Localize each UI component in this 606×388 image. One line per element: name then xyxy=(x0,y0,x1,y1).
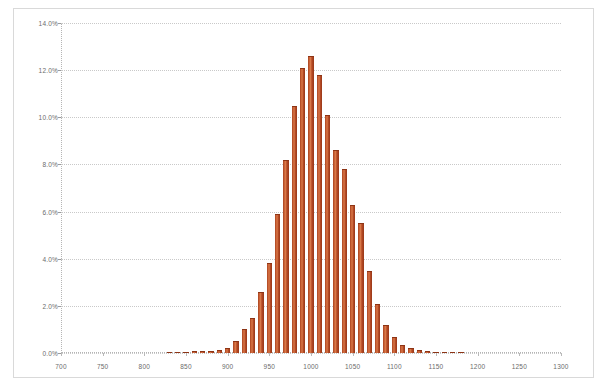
histogram-bar xyxy=(392,337,397,354)
x-tick-mark xyxy=(519,353,520,356)
histogram-bar xyxy=(400,345,405,353)
y-tick-mark xyxy=(58,306,61,307)
histogram-bar xyxy=(275,214,280,353)
x-tick-label: 1000 xyxy=(303,363,318,370)
histogram-bar xyxy=(367,271,372,354)
y-tick-label: 4.0% xyxy=(42,255,58,262)
x-tick-mark xyxy=(353,353,354,356)
histogram-bar xyxy=(300,68,305,353)
x-tick-label: 1100 xyxy=(387,363,402,370)
y-tick-mark xyxy=(58,117,61,118)
histogram-bar xyxy=(375,304,380,354)
x-tick-mark xyxy=(228,353,229,356)
y-tick-mark xyxy=(58,23,61,24)
x-tick-mark xyxy=(103,353,104,356)
histogram-bar xyxy=(258,292,263,353)
histogram-bar xyxy=(342,169,347,353)
y-axis-line xyxy=(61,23,62,353)
x-tick-label: 1150 xyxy=(429,363,444,370)
y-tick-label: 6.0% xyxy=(42,208,58,215)
x-tick-mark xyxy=(561,353,562,356)
histogram-bar xyxy=(317,75,322,353)
histogram-chart: 0.0%2.0%4.0%6.0%8.0%10.0%12.0%14.0% 7007… xyxy=(0,0,606,388)
x-tick-mark xyxy=(186,353,187,356)
histogram-bar xyxy=(250,318,255,353)
x-tick-mark xyxy=(311,353,312,356)
x-tick-mark xyxy=(436,353,437,356)
x-tick-mark xyxy=(394,353,395,356)
x-tick-label: 800 xyxy=(139,363,150,370)
histogram-bar xyxy=(325,115,330,353)
x-tick-label: 1050 xyxy=(345,363,360,370)
histogram-bar xyxy=(333,150,338,353)
plot-area xyxy=(61,23,561,353)
x-tick-label: 1250 xyxy=(512,363,527,370)
x-tick-mark xyxy=(61,353,62,356)
y-tick-mark xyxy=(58,212,61,213)
y-tick-label: 14.0% xyxy=(39,20,58,27)
histogram-bar xyxy=(283,160,288,353)
x-tick-label: 1200 xyxy=(470,363,485,370)
histogram-bar xyxy=(267,263,272,353)
x-tick-label: 700 xyxy=(55,363,66,370)
x-tick-mark xyxy=(269,353,270,356)
y-tick-label: 8.0% xyxy=(42,161,58,168)
y-tick-mark xyxy=(58,164,61,165)
x-tick-mark xyxy=(144,353,145,356)
chart-frame: 0.0%2.0%4.0%6.0%8.0%10.0%12.0%14.0% 7007… xyxy=(13,8,594,378)
x-tick-label: 1300 xyxy=(553,363,568,370)
x-tick-label: 950 xyxy=(264,363,275,370)
y-tick-label: 0.0% xyxy=(42,350,58,357)
gridline-y xyxy=(61,23,561,24)
y-tick-mark xyxy=(58,70,61,71)
histogram-bar xyxy=(233,341,238,353)
y-tick-label: 12.0% xyxy=(39,67,58,74)
y-tick-label: 10.0% xyxy=(39,114,58,121)
x-tick-label: 750 xyxy=(97,363,108,370)
x-tick-label: 850 xyxy=(180,363,191,370)
histogram-bar xyxy=(242,329,247,353)
histogram-bar xyxy=(383,325,388,353)
y-axis: 0.0%2.0%4.0%6.0%8.0%10.0%12.0%14.0% xyxy=(28,23,58,353)
histogram-bar xyxy=(358,223,363,353)
x-tick-mark xyxy=(478,353,479,356)
y-tick-label: 2.0% xyxy=(42,302,58,309)
histogram-bar xyxy=(292,106,297,354)
histogram-bar xyxy=(308,56,313,353)
x-tick-label: 900 xyxy=(222,363,233,370)
y-tick-mark xyxy=(58,259,61,260)
histogram-bar xyxy=(350,205,355,354)
x-axis: 7007508008509009501000105011001150120012… xyxy=(61,353,561,377)
